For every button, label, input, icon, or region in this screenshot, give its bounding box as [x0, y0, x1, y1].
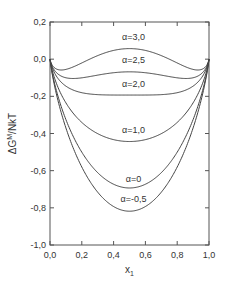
y-tick-label: -0,4 [30, 129, 46, 139]
y-tick-label: 0,0 [33, 54, 46, 64]
curve-label: α=2,5 [122, 55, 145, 65]
curve-label: α=1,0 [122, 125, 145, 135]
x-tick-label: 0,8 [171, 250, 184, 260]
curve-label: α=-0,5 [121, 194, 147, 204]
x-axis-title: x1 [125, 264, 134, 277]
x-tick-label: 0,6 [139, 250, 152, 260]
y-tick-label: -0,2 [30, 91, 46, 101]
mixing-free-energy-chart: 0,00,20,40,60,81,00,20,0-0,2-0,4-0,6-0,8… [0, 0, 227, 287]
y-tick-label: -1,0 [30, 240, 46, 250]
y-tick-label: 0,2 [33, 17, 46, 27]
y-tick-label: -0,8 [30, 203, 46, 213]
curve-label: α=3,0 [122, 32, 145, 42]
x-tick-label: 0,2 [76, 250, 89, 260]
x-tick-label: 0,0 [44, 250, 57, 260]
plot-labels: α=3,0α=2,5α=2,0α=1,0α=0α=-0,5 [121, 32, 147, 204]
x-tick-label: 1,0 [203, 250, 216, 260]
curve-label: α=0 [126, 174, 141, 184]
plot-axes: 0,00,20,40,60,81,00,20,0-0,2-0,4-0,6-0,8… [6, 17, 215, 277]
y-axis-title: ΔGM/NkT [6, 113, 18, 154]
curve-label: α=2,0 [122, 79, 145, 89]
y-tick-label: -0,6 [30, 166, 46, 176]
x-tick-label: 0,4 [107, 250, 120, 260]
